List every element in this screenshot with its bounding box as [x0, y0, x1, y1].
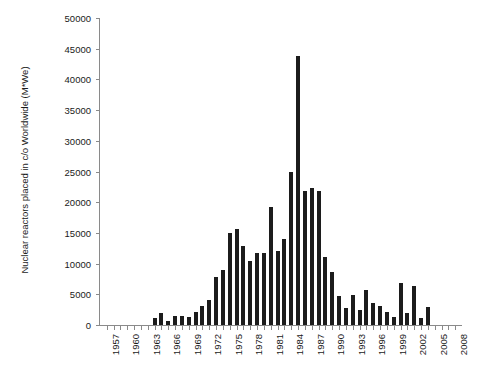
y-axis-tick-label: 30000 [65, 135, 91, 146]
y-axis-tick-mark [96, 294, 100, 295]
bar [187, 317, 191, 325]
x-axis-tick-label: 1996 [376, 334, 387, 355]
bar [385, 312, 389, 325]
bar [221, 270, 225, 325]
y-axis-tick-mark [96, 264, 100, 265]
x-axis-tick-label: 1960 [130, 334, 141, 355]
y-axis-tick-label: 5000 [70, 289, 91, 300]
bar [282, 239, 286, 325]
y-axis-tick-label: 25000 [65, 166, 91, 177]
plot-area [99, 18, 462, 326]
bar [310, 188, 314, 325]
bar [392, 317, 396, 325]
bar [412, 286, 416, 325]
x-axis-tick-label: 2002 [417, 334, 428, 355]
x-axis-tick-label: 2005 [438, 334, 449, 355]
bar [159, 313, 163, 325]
y-axis-tick-label: 40000 [65, 74, 91, 85]
x-axis-tick-label: 1999 [397, 334, 408, 355]
bar [317, 191, 321, 325]
y-axis-tick-label: 50000 [65, 13, 91, 24]
x-axis-tick-label: 1975 [233, 334, 244, 355]
y-axis-tick-label: 35000 [65, 105, 91, 116]
bar [248, 261, 252, 325]
bar [351, 295, 355, 325]
bar [337, 296, 341, 325]
x-axis-tick-label: 1984 [294, 334, 305, 355]
bar [378, 306, 382, 325]
bar [194, 312, 198, 326]
bar [323, 257, 327, 325]
bar [153, 318, 157, 325]
x-axis-tick-label: 1972 [212, 334, 223, 355]
x-axis-tick-label: 2008 [458, 334, 469, 355]
y-axis-tick-label: 20000 [65, 197, 91, 208]
x-axis-tick-labels: 1957196019631966196919721975197819811984… [99, 326, 461, 387]
y-axis-tick-label: 45000 [65, 43, 91, 54]
bar [289, 172, 293, 325]
bar [426, 307, 430, 325]
y-axis-tick-mark [96, 202, 100, 203]
y-axis-title: Nuclear reactors placed in c/o Worldwide… [0, 0, 50, 340]
bar [180, 316, 184, 325]
x-axis-tick-label: 1981 [274, 334, 285, 355]
bar [419, 318, 423, 325]
x-axis-tick-label: 1963 [151, 334, 162, 355]
y-axis-tick-label: 15000 [65, 227, 91, 238]
x-axis-tick-label: 1993 [356, 334, 367, 355]
y-axis-tick-label: 0 [86, 320, 91, 331]
y-axis-tick-mark [96, 172, 100, 173]
y-axis-tick-mark [96, 49, 100, 50]
bar [241, 246, 245, 325]
y-axis-tick-mark [96, 141, 100, 142]
y-axis-tick-label: 10000 [65, 258, 91, 269]
bar [255, 253, 259, 325]
bar [296, 56, 300, 325]
bar [228, 233, 232, 325]
bar [358, 310, 362, 325]
x-axis-tick-label: 1978 [253, 334, 264, 355]
y-axis-tick-labels: 0500010000150002000025000300003500040000… [50, 0, 95, 340]
bar [364, 290, 368, 325]
bar [276, 251, 280, 325]
x-axis-tick-label: 1969 [192, 334, 203, 355]
bar [173, 316, 177, 325]
bar [214, 277, 218, 326]
y-axis-tick-mark [96, 110, 100, 111]
bar [399, 283, 403, 325]
y-axis-tick-mark [96, 233, 100, 234]
x-axis-tick-label: 1987 [315, 334, 326, 355]
x-axis-tick-label: 1990 [335, 334, 346, 355]
bar [303, 191, 307, 325]
y-axis-title-text: Nuclear reactors placed in c/o Worldwide… [19, 66, 31, 273]
bar [235, 229, 239, 325]
x-axis-tick-label: 1966 [171, 334, 182, 355]
bar [200, 306, 204, 325]
bars-layer [100, 18, 462, 325]
bar [207, 300, 211, 325]
bar [269, 207, 273, 325]
y-axis-tick-mark [96, 79, 100, 80]
bar [344, 308, 348, 325]
x-axis-tick-label: 1957 [110, 334, 121, 355]
y-axis-tick-mark [96, 18, 100, 19]
chart-container: Nuclear reactors placed in c/o Worldwide… [0, 0, 481, 387]
bar [330, 272, 334, 325]
bar [371, 303, 375, 325]
bar [405, 313, 409, 325]
bar [262, 253, 266, 325]
